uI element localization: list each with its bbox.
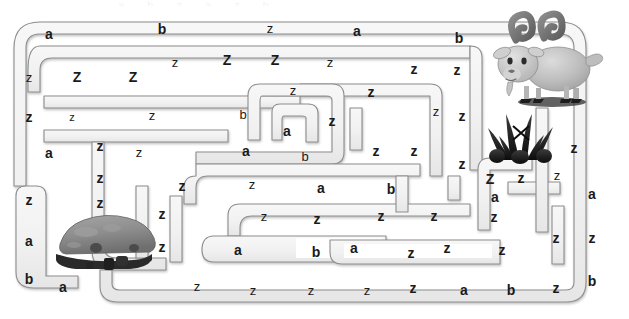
rock-illustration [56,215,155,270]
maze-worksheet: a b z a z b [0,0,629,319]
maze-graphic [0,0,629,319]
